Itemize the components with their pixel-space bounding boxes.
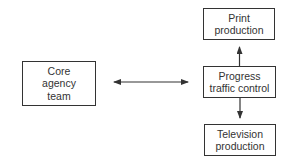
node-label-line: production [214,24,263,37]
node-label-line: traffic control [210,82,270,95]
node-label-line: Progress [218,70,260,83]
node-television-production: Television production [204,124,276,156]
node-core-agency-team: Core agency team [22,61,96,106]
node-label-line: team [47,90,70,103]
node-print-production: Print production [203,8,275,40]
node-label-line: Print [228,12,250,25]
node-label-line: agency [42,77,76,90]
node-label-line: Television [217,128,263,141]
node-label-line: production [215,140,264,153]
node-progress-traffic-control: Progress traffic control [203,66,276,98]
node-label-line: Core [48,65,71,78]
